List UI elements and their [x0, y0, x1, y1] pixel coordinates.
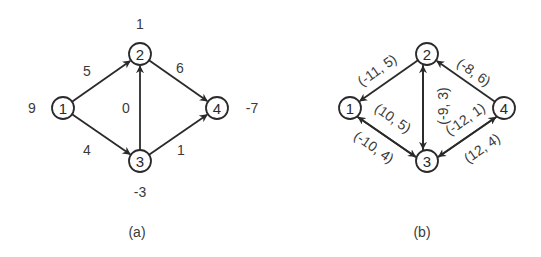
- caption-b: (b): [413, 224, 430, 240]
- edge-1-to-2: [72, 61, 130, 102]
- edge-label-3-2: 0: [122, 100, 130, 116]
- node-supply-2: 1: [136, 16, 144, 32]
- node-3: 3: [129, 150, 151, 172]
- node-label: 3: [136, 153, 144, 170]
- node-label: 3: [423, 153, 431, 170]
- node-supply-4: -7: [246, 100, 259, 116]
- edge-label-3-1: (-10, 4): [351, 128, 397, 167]
- node-2: 2: [416, 43, 438, 65]
- edge-label-1-2: 5: [83, 63, 91, 79]
- node-label: 1: [59, 100, 67, 117]
- edge-label-2-1: (-11, 5): [354, 51, 399, 89]
- edge-label-1-3: 4: [83, 142, 91, 158]
- node-label: 2: [423, 46, 431, 63]
- node-supply-1: 9: [28, 100, 36, 116]
- edge-label-3-4: 1: [177, 142, 185, 158]
- node-4: 4: [206, 97, 228, 119]
- node-3: 3: [416, 150, 438, 172]
- node-4: 4: [493, 97, 515, 119]
- node-label: 1: [346, 100, 354, 117]
- caption-a: (a): [128, 224, 145, 240]
- edge-1-to-3: [72, 114, 130, 154]
- network-flow-figure: 5406119213-34-7 (-11, 5)(10, 5)(-10, 4)(…: [0, 0, 541, 257]
- node-2: 2: [129, 43, 151, 65]
- edge-label-2-4: 6: [176, 60, 184, 76]
- diagram-b: (-11, 5)(10, 5)(-10, 4)(-9, 3)(-8, 6)(-1…: [339, 43, 515, 172]
- edge-label-2-3: (-9, 3): [435, 87, 451, 124]
- edge-label-4-2: (-8, 6): [454, 55, 494, 90]
- node-label: 4: [500, 100, 508, 117]
- node-supply-3: -3: [134, 184, 147, 200]
- node-label: 2: [136, 46, 144, 63]
- node-label: 4: [213, 100, 221, 117]
- edge-label-3-4: (12, 4): [461, 130, 503, 166]
- node-1: 1: [52, 97, 74, 119]
- node-1: 1: [339, 97, 361, 119]
- diagram-a: 5406119213-34-7: [28, 16, 258, 200]
